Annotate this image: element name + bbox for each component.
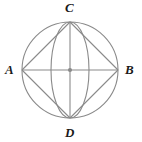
vertex-label-b: B (125, 63, 134, 76)
center-point-dot (68, 68, 72, 72)
chord-cb (70, 22, 118, 70)
chord-ca (22, 22, 70, 70)
vertex-label-a: A (5, 63, 14, 76)
chord-bd (70, 70, 118, 118)
vertex-label-c: C (65, 1, 74, 14)
chord-ad (22, 70, 70, 118)
geometry-canvas (0, 0, 142, 142)
vertex-label-d: D (65, 126, 74, 139)
geometry-figure: A B C D (0, 0, 142, 142)
